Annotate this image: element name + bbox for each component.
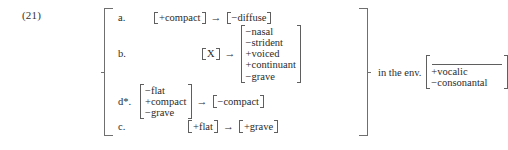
rule-d-arrow-icon: → [197, 96, 208, 107]
rule-a-output-matrix: −diffuse [227, 12, 272, 24]
rule-a-input-matrix: +compact [154, 12, 206, 24]
rule-b-output-matrix: −nasal −strident +voiced +continuant −gr… [241, 25, 301, 83]
rule-body-d: −flat +compact −grave → −compact [140, 84, 294, 120]
rule-c-output-matrix: +grave [239, 120, 278, 132]
feature-list: X [207, 48, 215, 60]
feature: +compact [159, 12, 201, 23]
rule-body-a: +compact → −diffuse [140, 12, 308, 24]
feature-variable: X [207, 48, 215, 59]
feature: −consonantal [431, 77, 503, 88]
rule-c-input-matrix: +flat [188, 120, 218, 132]
rule-d-output-matrix: −compact [213, 95, 265, 107]
rule-label-a: a. [118, 12, 140, 24]
rule-body-c: +flat → +grave [140, 120, 342, 132]
feature: −flat [145, 85, 187, 96]
rule-row-a: a. +compact → −diffuse [118, 12, 356, 24]
feature: −strident [246, 37, 296, 48]
rule-row-c: c. +flat → +grave [118, 120, 356, 132]
feature: +vocalic [431, 66, 503, 77]
feature: +continuant [246, 59, 296, 70]
feature: −compact [218, 96, 260, 107]
rule-c-arrow-icon: → [223, 121, 234, 132]
feature: −grave [246, 71, 296, 82]
feature: +voiced [246, 48, 296, 59]
rule-a-arrow-icon: → [211, 12, 222, 23]
rule-d-input-matrix: −flat +compact −grave [140, 84, 192, 120]
rule-b-input-matrix: X [202, 48, 220, 60]
feature-list: −flat +compact −grave [145, 84, 187, 120]
feature: +flat [193, 121, 213, 132]
feature: −nasal [246, 26, 296, 37]
environment-matrix: +vocalic −consonantal [426, 55, 508, 89]
feature: −diffuse [232, 12, 267, 23]
environment-slot-underscore [431, 57, 503, 66]
rule-row-b: b. X → −nasal −strident +voiced +contin [118, 25, 356, 83]
feature: +compact [145, 96, 187, 107]
feature-list: +compact [159, 12, 201, 24]
rule-body-b: X → −nasal −strident +voiced +continuant… [140, 25, 356, 83]
feature-list: −nasal −strident +voiced +continuant −gr… [246, 25, 296, 83]
feature-list: +grave [244, 120, 273, 132]
rule-label-c: c. [118, 121, 140, 133]
rule-label-d: d*. [118, 96, 140, 108]
rule-label-b: b. [118, 48, 140, 60]
right-curly-brace [360, 8, 371, 136]
feature-list: −diffuse [232, 12, 267, 24]
rule-row-d: d*. −flat +compact −grave → −compact [118, 84, 356, 120]
rule-b-arrow-icon: → [225, 48, 236, 59]
feature: −grave [145, 107, 187, 118]
environment-label: in the env. [378, 67, 421, 78]
feature-list: −compact [218, 95, 260, 107]
feature: +grave [244, 121, 273, 132]
feature-list: +flat [193, 120, 213, 132]
rule-assembly: a. +compact → −diffuse [101, 8, 508, 136]
example-number: (21) [22, 9, 41, 21]
left-curly-brace [101, 8, 112, 136]
rule-list: a. +compact → −diffuse [112, 8, 360, 136]
feature-list: +vocalic −consonantal [431, 55, 503, 89]
